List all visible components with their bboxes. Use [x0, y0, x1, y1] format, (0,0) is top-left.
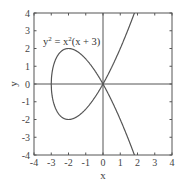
x-tick-label: -4 — [30, 157, 38, 168]
x-axis-label: x — [100, 169, 106, 181]
chart: -4-3-2-101234 -4-3-2-101234 y2 = x2(x + … — [0, 0, 181, 187]
y-tick-label: 2 — [25, 43, 30, 54]
x-tick-label: 2 — [135, 157, 140, 168]
x-tick-label: -3 — [47, 157, 55, 168]
y-tick-label: 1 — [25, 61, 30, 72]
y-tick-label: -1 — [22, 96, 30, 107]
x-tick-label: -1 — [82, 157, 90, 168]
y-tick-label: 4 — [25, 8, 30, 19]
curve-branch — [51, 49, 137, 164]
y-tick-label: -2 — [22, 114, 30, 125]
y-tick-label: -4 — [22, 150, 30, 161]
y-tick-label: 3 — [25, 25, 30, 36]
equation-annotation: y2 = x2(x + 3) — [43, 35, 101, 48]
y-tick-label: 0 — [25, 79, 30, 90]
curve-branch — [51, 5, 137, 120]
y-tick-labels: -4-3-2-101234 — [22, 8, 30, 161]
y-axis-label: y — [7, 81, 19, 87]
x-tick-label: 3 — [152, 157, 157, 168]
x-tick-label: 4 — [170, 157, 175, 168]
plot-area — [34, 5, 172, 164]
x-tick-label: -2 — [64, 157, 72, 168]
x-tick-label: 0 — [101, 157, 106, 168]
x-tick-label: 1 — [118, 157, 123, 168]
y-tick-label: -3 — [22, 132, 30, 143]
x-tick-labels: -4-3-2-101234 — [30, 157, 175, 168]
